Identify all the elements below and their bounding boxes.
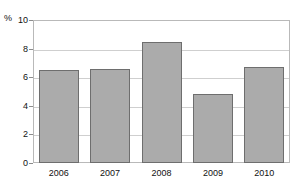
bars-group bbox=[33, 20, 290, 163]
x-tick-label: 2008 bbox=[151, 168, 171, 178]
y-tick-label: 8 bbox=[2, 44, 28, 54]
bar-2006 bbox=[39, 70, 79, 163]
y-tick-label: 0 bbox=[2, 158, 28, 168]
y-tick-label: 4 bbox=[2, 101, 28, 111]
bar-2010 bbox=[244, 67, 284, 163]
bar-2009 bbox=[193, 94, 233, 163]
y-tick-label: 2 bbox=[2, 129, 28, 139]
x-tick-label: 2006 bbox=[49, 168, 69, 178]
bar-2008 bbox=[142, 42, 182, 163]
x-tick-label: 2009 bbox=[203, 168, 223, 178]
bar-2007 bbox=[90, 69, 130, 163]
x-tick-label: 2007 bbox=[100, 168, 120, 178]
y-tick-label: 10 bbox=[2, 15, 28, 25]
x-tick-label: 2010 bbox=[254, 168, 274, 178]
bar-chart: % 0246810 20062007200820092010 bbox=[0, 0, 302, 195]
y-tick-mark bbox=[29, 163, 33, 164]
y-tick-label: 6 bbox=[2, 72, 28, 82]
